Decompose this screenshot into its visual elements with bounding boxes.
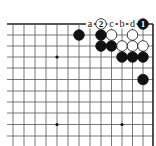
letter-mark-c: c [109,18,114,29]
letter-marks-layer: acbd [86,18,137,29]
star-point [55,123,58,126]
star-point [120,123,123,126]
black-stone [127,52,138,63]
letter-mark-a: a [88,18,93,29]
move-number-2: 2 [99,19,104,29]
white-stone [138,41,149,52]
black-stone [117,52,128,63]
white-stone [106,30,117,41]
black-stone [74,30,85,41]
letter-mark-d: d [130,18,135,29]
black-stone [138,52,149,63]
white-stone [117,41,128,52]
black-stone [96,30,107,41]
white-stone [127,41,138,52]
go-board-diagram: 12 acbd [0,0,156,146]
black-stone [96,41,107,52]
black-stone [106,41,117,52]
white-stone [127,30,138,41]
star-point [55,55,58,58]
black-stone [138,74,149,85]
letter-mark-b: b [120,18,125,29]
move-number-1: 1 [141,19,146,29]
